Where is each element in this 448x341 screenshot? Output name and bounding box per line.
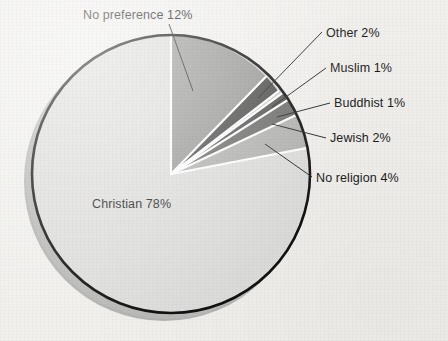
slice-label-muslim: Muslim 1% (330, 61, 392, 75)
pie-chart-figure: No preference 12% Other 2% Muslim 1% Bud… (0, 0, 448, 341)
leader-other (258, 32, 322, 98)
slice-label-christian: Christian 78% (92, 197, 171, 211)
slice-label-jewish: Jewish 2% (330, 131, 391, 145)
slice-label-buddhist: Buddhist 1% (334, 96, 405, 110)
slice-label-other: Other 2% (326, 26, 380, 40)
slice-label-no-religion: No religion 4% (316, 171, 399, 185)
slice-label-no-preference: No preference 12% (83, 8, 192, 22)
